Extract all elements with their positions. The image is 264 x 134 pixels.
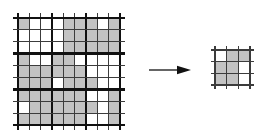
right-arrow-icon <box>149 66 191 75</box>
coarse-graining-figure <box>0 0 264 134</box>
coarse-grained-grid <box>211 46 254 89</box>
large-lattice-grid <box>13 13 125 130</box>
figure-canvas <box>0 0 264 134</box>
